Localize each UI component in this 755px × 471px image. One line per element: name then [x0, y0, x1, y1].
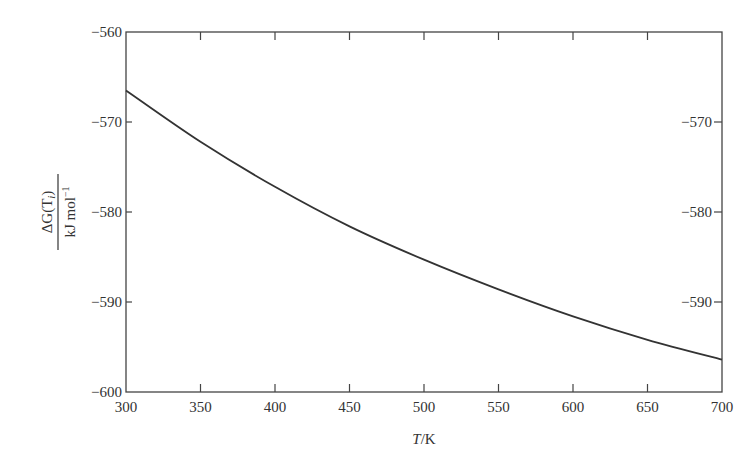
- y-axis-title: ΔG(Ti) kJ mol−1: [39, 174, 78, 250]
- y-tick-label-right: −570: [681, 114, 712, 130]
- y-tick-label: −600: [91, 384, 122, 400]
- x-tick-label: 550: [487, 399, 510, 415]
- plot-frame: [126, 32, 722, 392]
- y-axis-title-numerator: ΔG(Ti): [39, 191, 57, 234]
- y-tick-label-right: −590: [681, 294, 712, 310]
- x-tick-label: 350: [189, 399, 212, 415]
- x-tick-label: 650: [636, 399, 659, 415]
- x-tick-label: 450: [338, 399, 361, 415]
- x-tick-label: 300: [115, 399, 138, 415]
- y-tick-label: −580: [91, 204, 122, 220]
- line-chart: 300350400450500550600650700 −600−590−590…: [0, 0, 755, 471]
- x-axis-ticks: 300350400450500550600650700: [115, 32, 734, 415]
- x-tick-label: 600: [562, 399, 585, 415]
- x-tick-label: 400: [264, 399, 287, 415]
- x-tick-label: 700: [711, 399, 734, 415]
- x-axis-title: T/K: [412, 431, 436, 447]
- y-tick-label: −560: [91, 24, 122, 40]
- data-line: [126, 91, 722, 360]
- y-axis-ticks: −600−590−590−580−580−570−570−560: [91, 24, 722, 400]
- y-tick-label-right: −580: [681, 204, 712, 220]
- y-tick-label: −570: [91, 114, 122, 130]
- x-tick-label: 500: [413, 399, 436, 415]
- y-axis-title-denominator: kJ mol−1: [60, 186, 78, 237]
- y-tick-label: −590: [91, 294, 122, 310]
